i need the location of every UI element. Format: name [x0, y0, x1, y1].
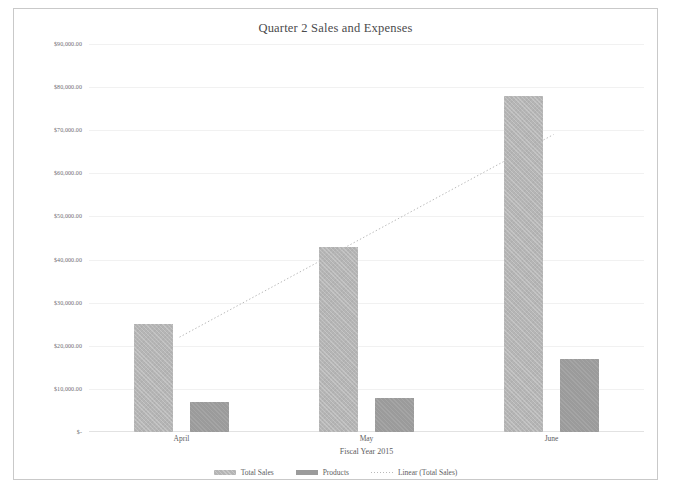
- y-tick-label: $50,000.00: [54, 213, 82, 219]
- x-axis-title: Fiscal Year 2015: [89, 447, 644, 456]
- legend-item-linear-total-sales[interactable]: Linear (Total Sales): [371, 468, 457, 477]
- y-axis: $-$10,000.00$20,000.00$30,000.00$40,000.…: [14, 44, 86, 432]
- y-tick-label: $60,000.00: [54, 170, 82, 176]
- y-tick-label: $20,000.00: [54, 343, 82, 349]
- y-tick-label: $30,000.00: [54, 300, 82, 306]
- bar-products-june[interactable]: [560, 359, 599, 432]
- x-tick-label-may: May: [360, 434, 374, 443]
- y-tick-label: $10,000.00: [54, 386, 82, 392]
- y-tick-label: $70,000.00: [54, 127, 82, 133]
- legend-label: Total Sales: [241, 468, 274, 477]
- legend-item-products[interactable]: Products: [296, 468, 349, 477]
- x-axis: AprilMayJune: [89, 434, 644, 448]
- legend-swatch-icon: [214, 470, 236, 475]
- x-tick-label-april: April: [174, 434, 190, 443]
- y-tick-label: $40,000.00: [54, 257, 82, 263]
- legend-swatch-icon: [296, 470, 318, 475]
- y-tick-label: $-: [77, 429, 82, 435]
- chart-legend: Total SalesProductsLinear (Total Sales): [14, 468, 657, 477]
- x-tick-label-june: June: [545, 434, 559, 443]
- y-tick-label: $80,000.00: [54, 84, 82, 90]
- chart-container[interactable]: Quarter 2 Sales and Expenses $-$10,000.0…: [13, 8, 658, 480]
- bar-total-sales-june[interactable]: [504, 96, 543, 432]
- bar-group: [89, 44, 644, 432]
- legend-item-total-sales[interactable]: Total Sales: [214, 468, 274, 477]
- plot-area: [89, 44, 644, 432]
- legend-swatch-icon: [371, 472, 393, 473]
- legend-label: Linear (Total Sales): [398, 468, 457, 477]
- legend-label: Products: [323, 468, 349, 477]
- chart-title: Quarter 2 Sales and Expenses: [14, 21, 657, 36]
- y-tick-label: $90,000.00: [54, 41, 82, 47]
